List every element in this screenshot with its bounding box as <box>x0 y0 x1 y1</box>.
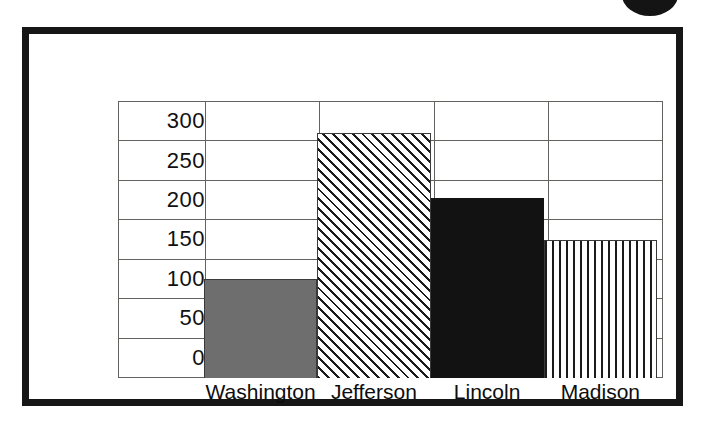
chart-frame: 300 250 200 150 <box>22 27 683 406</box>
plot-cell <box>206 102 320 141</box>
plot-cell <box>206 299 320 338</box>
y-axis-tick-250: 250 <box>119 141 206 180</box>
grid-row-50: 50 <box>119 299 663 338</box>
corner-dot-decoration <box>622 0 678 16</box>
y-axis-tick-0: 0 <box>119 338 206 377</box>
x-axis-category-labels: Washington Jefferson Lincoln Madison <box>204 380 657 404</box>
grid-row-100: 100 <box>119 259 663 298</box>
grid-row-200: 200 <box>119 180 663 219</box>
plot-cell <box>320 338 434 377</box>
grid-row-0: 0 <box>119 338 663 377</box>
x-axis-label-madison: Madison <box>544 380 657 404</box>
x-axis-label-jefferson: Jefferson <box>317 380 430 404</box>
plot-cell <box>434 141 548 180</box>
x-axis-label-washington: Washington <box>204 380 317 404</box>
plot-cell <box>548 299 662 338</box>
plot-cell <box>206 338 320 377</box>
plot-cell <box>548 259 662 298</box>
plot-cell <box>434 299 548 338</box>
bar-chart: 300 250 200 150 <box>118 101 657 378</box>
plot-cell <box>320 220 434 259</box>
plot-cell <box>548 180 662 219</box>
y-axis-tick-200: 200 <box>119 180 206 219</box>
plot-cell <box>434 259 548 298</box>
plot-cell <box>548 102 662 141</box>
y-axis-tick-300: 300 <box>119 102 206 141</box>
plot-cell <box>434 180 548 219</box>
plot-cell <box>206 141 320 180</box>
plot-cell <box>320 299 434 338</box>
plot-cell <box>548 141 662 180</box>
plot-cell <box>434 220 548 259</box>
y-axis-tick-150: 150 <box>119 220 206 259</box>
chart-gridlines: 300 250 200 150 <box>118 101 663 378</box>
plot-cell <box>548 338 662 377</box>
y-axis-tick-100: 100 <box>119 259 206 298</box>
grid-row-250: 250 <box>119 141 663 180</box>
plot-cell <box>320 102 434 141</box>
plot-cell <box>548 220 662 259</box>
grid-row-300: 300 <box>119 102 663 141</box>
plot-cell <box>434 338 548 377</box>
y-axis-tick-50: 50 <box>119 299 206 338</box>
plot-cell <box>320 180 434 219</box>
plot-cell <box>320 259 434 298</box>
x-axis-label-lincoln: Lincoln <box>431 380 544 404</box>
grid-row-150: 150 <box>119 220 663 259</box>
plot-cell <box>206 259 320 298</box>
plot-cell <box>206 180 320 219</box>
plot-cell <box>206 220 320 259</box>
plot-cell <box>434 102 548 141</box>
plot-cell <box>320 141 434 180</box>
